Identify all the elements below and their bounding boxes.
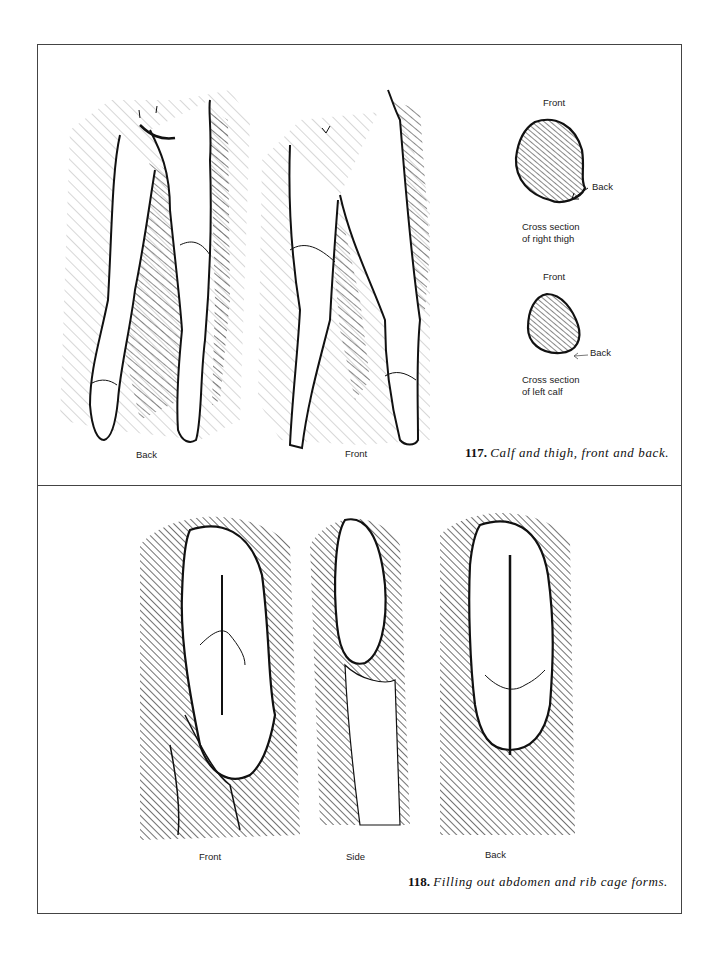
- view-label-front: Front: [199, 851, 221, 862]
- thigh-caption-line2: of right thigh: [522, 233, 580, 245]
- calf-caption-line1: Cross section: [522, 374, 580, 386]
- torso-side-view-drawing: [310, 519, 410, 825]
- figure-118-caption: 118. Filling out abdomen and rib cage fo…: [408, 874, 668, 890]
- figure-117-number: 117.: [465, 445, 487, 460]
- calf-front-label: Front: [543, 271, 565, 282]
- figure-118-number: 118.: [408, 874, 430, 889]
- thigh-caption-line1: Cross section: [522, 221, 580, 233]
- calf-back-label: Back: [590, 347, 611, 358]
- torso-back-view-drawing: [440, 513, 575, 835]
- calf-cross-section-drawing: [528, 294, 588, 359]
- figure-117-caption: 117. Calf and thigh, front and back.: [465, 445, 669, 461]
- figure-117-illustration: [0, 0, 717, 485]
- thigh-front-label: Front: [543, 97, 565, 108]
- calf-cross-section-caption: Cross section of left calf: [522, 374, 580, 398]
- view-label-front: Front: [345, 448, 367, 459]
- legs-back-view-drawing: [60, 90, 250, 442]
- thigh-back-label: Back: [592, 181, 613, 192]
- view-label-back: Back: [485, 849, 506, 860]
- figure-118-caption-text: Filling out abdomen and rib cage forms.: [433, 874, 668, 889]
- torso-front-view-drawing: [140, 517, 300, 840]
- calf-caption-line2: of left calf: [522, 386, 580, 398]
- thigh-cross-section-drawing: [516, 120, 588, 202]
- view-label-side: Side: [346, 851, 365, 862]
- legs-front-view-drawing: [258, 90, 430, 448]
- figure-117-caption-text: Calf and thigh, front and back.: [490, 445, 669, 460]
- thigh-cross-section-caption: Cross section of right thigh: [522, 221, 580, 245]
- view-label-back: Back: [136, 449, 157, 460]
